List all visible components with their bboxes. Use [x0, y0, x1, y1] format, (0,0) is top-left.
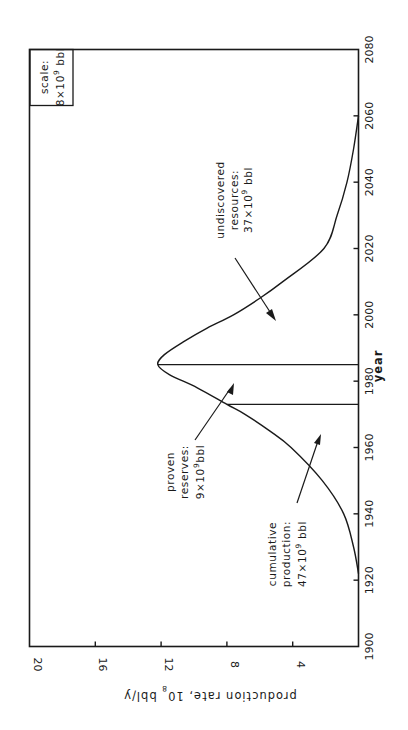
rate-tick-label: 16	[96, 658, 109, 672]
svg-text:cumulative: cumulative	[266, 522, 278, 586]
production-curve	[158, 116, 359, 574]
y-axis-title: production rate, 108 bbl/y	[123, 684, 297, 703]
svg-text:undiscovered: undiscovered	[214, 161, 226, 239]
scale-value: 8×109 bbl	[52, 48, 66, 107]
year-tick-label: 1960	[363, 434, 376, 462]
svg-text:9×109bbl: 9×109bbl	[192, 445, 206, 500]
annotation-cumulative-production: cumulative production: 47×109 bbl	[266, 434, 321, 587]
scale-title: scale:	[38, 60, 50, 94]
rate-tick-label: 12	[162, 658, 175, 672]
rate-tick-label: 4	[294, 661, 307, 668]
year-tick-label: 1900	[363, 633, 376, 661]
annotation-undiscovered-resources: undiscovered resources: 37×109 bbl	[214, 161, 276, 321]
year-tick-label: 2000	[363, 301, 376, 329]
x-axis-title: year	[371, 350, 385, 383]
rate-tick-label: 8	[228, 661, 241, 668]
year-tick-label: 2060	[363, 102, 376, 130]
year-tick-label: 1920	[363, 566, 376, 594]
year-tick-label: 2020	[363, 235, 376, 263]
year-tick-label: 2080	[363, 36, 376, 64]
axis-tick-labels: 1900192019401960198020002020204020602080…	[31, 36, 376, 672]
annotation-proven-reserves: proven reserves: 9×109bbl	[164, 383, 234, 499]
rate-tick-label: 20	[31, 658, 44, 672]
svg-text:reserves:: reserves:	[178, 445, 190, 499]
svg-text:proven: proven	[164, 452, 176, 492]
production-rate-chart: 1900192019401960198020002020204020602080…	[0, 0, 408, 730]
year-tick-label: 1940	[363, 500, 376, 528]
vertical-markers	[158, 365, 359, 405]
svg-text:production:: production:	[280, 521, 292, 588]
year-tick-label: 2040	[363, 168, 376, 196]
axis-ticks	[95, 116, 358, 647]
svg-text:resources:: resources:	[228, 170, 240, 230]
scale-legend: scale: 8×109 bbl	[30, 48, 73, 107]
plot-frame	[30, 50, 359, 647]
svg-text:47×109 bbl: 47×109 bbl	[294, 521, 308, 587]
svg-text:37×109 bbl: 37×109 bbl	[240, 167, 254, 233]
